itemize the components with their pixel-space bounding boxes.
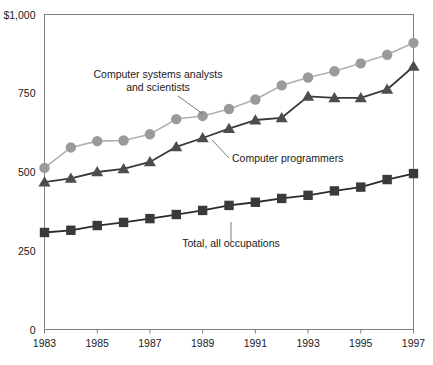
data-point-circle	[39, 163, 49, 173]
data-point-circle	[303, 72, 313, 82]
series-annotation-label: Computer systems analysts	[94, 68, 223, 80]
data-point-circle	[277, 80, 287, 90]
annotation-leader-line	[212, 140, 229, 158]
x-axis-tick-label: 1997	[402, 337, 426, 349]
data-point-circle	[92, 136, 102, 146]
data-point-circle	[408, 38, 418, 48]
data-point-square	[303, 191, 312, 200]
data-point-square	[277, 194, 286, 203]
chart-container: 0250500750$1,000198319851987198919911993…	[0, 0, 433, 365]
x-axis-tick-label: 1995	[349, 337, 373, 349]
data-point-square	[40, 228, 49, 237]
x-axis-tick-label: 1989	[191, 337, 215, 349]
y-axis-tick-label: 500	[18, 166, 36, 178]
data-point-circle	[382, 50, 392, 60]
line-chart: 0250500750$1,000198319851987198919911993…	[0, 0, 433, 365]
x-axis-tick-label: 1985	[86, 337, 110, 349]
data-point-circle	[145, 129, 155, 139]
x-axis-tick-label: 1993	[296, 337, 320, 349]
annotation-analysts: Computer systems analystsand scientists	[94, 68, 223, 114]
data-point-square	[145, 214, 154, 223]
data-point-square	[382, 175, 391, 184]
data-point-circle	[250, 94, 260, 104]
y-axis-tick-label: 750	[18, 87, 36, 99]
data-point-square	[66, 226, 75, 235]
x-axis-tick-label: 1983	[33, 337, 57, 349]
x-axis-tick-label: 1987	[138, 337, 162, 349]
data-point-square	[356, 182, 365, 191]
data-point-circle	[66, 142, 76, 152]
series-group-2	[40, 169, 418, 237]
series-annotation-label: and scientists	[126, 81, 190, 93]
data-point-circle	[224, 104, 234, 114]
data-point-square	[224, 201, 233, 210]
data-point-circle	[356, 58, 366, 68]
data-point-square	[93, 221, 102, 230]
faint-header-text	[0, 0, 433, 2]
data-point-circle	[118, 135, 128, 145]
series-annotation-label: Computer programmers	[232, 152, 343, 164]
series-annotation-label: Total, all occupations	[182, 237, 279, 249]
data-point-square	[409, 169, 418, 178]
data-point-square	[198, 206, 207, 215]
data-point-square	[330, 186, 339, 195]
data-point-triangle	[302, 91, 314, 101]
data-point-square	[119, 218, 128, 227]
annotation-leader-line	[178, 96, 203, 114]
data-point-circle	[329, 66, 339, 76]
data-point-triangle	[407, 61, 419, 71]
x-axis-tick-label: 1991	[244, 337, 268, 349]
y-axis-tick-label: $1,000	[3, 9, 35, 21]
y-axis-tick-label: 0	[30, 324, 36, 336]
series-group-0	[39, 38, 418, 173]
data-point-circle	[197, 111, 207, 121]
data-point-square	[251, 198, 260, 207]
data-point-triangle	[144, 156, 156, 166]
data-point-circle	[171, 114, 181, 124]
annotation-total: Total, all occupations	[182, 222, 279, 249]
y-axis-tick-label: 250	[18, 245, 36, 257]
annotation-programmers: Computer programmers	[212, 140, 343, 164]
data-point-square	[172, 210, 181, 219]
